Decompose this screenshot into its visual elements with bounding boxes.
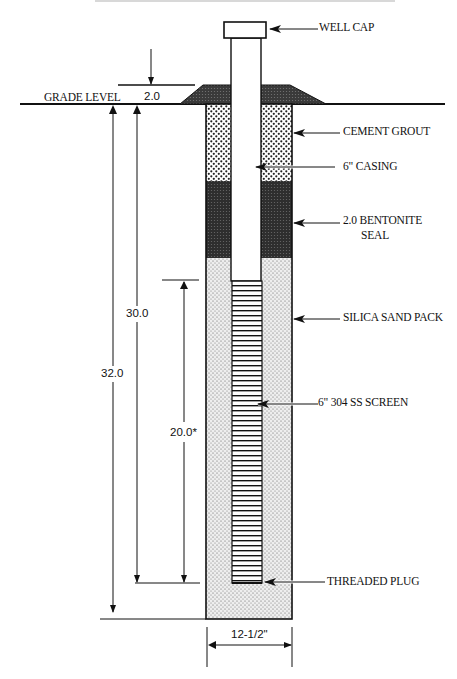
label-cement-grout: CEMENT GROUT <box>343 125 430 138</box>
label-bentonite-line2: SEAL <box>361 229 389 242</box>
dim-casing-depth: 30.0 <box>126 307 148 321</box>
label-grade-level: GRADE LEVEL <box>44 91 121 104</box>
label-casing: 6" CASING <box>343 160 397 173</box>
well-cap <box>224 22 266 38</box>
label-bentonite-line1: 2.0 BENTONITE <box>343 214 422 227</box>
dim-stickup: 2.0 <box>144 90 160 104</box>
dim-screen-length: 20.0* <box>170 426 197 440</box>
label-screen: 6" 304 SS SCREEN <box>318 396 408 409</box>
well-screen <box>232 281 262 583</box>
dim-borehole-diameter: 12-1/2" <box>231 628 268 642</box>
dim-total-depth: 32.0 <box>101 367 123 381</box>
label-sand-pack: SILICA SAND PACK <box>343 311 443 324</box>
label-threaded-plug: THREADED PLUG <box>327 575 419 588</box>
label-well-cap: WELL CAP <box>319 21 374 34</box>
casing-pipe <box>231 38 261 281</box>
cropped-title-strip <box>95 0 395 2</box>
